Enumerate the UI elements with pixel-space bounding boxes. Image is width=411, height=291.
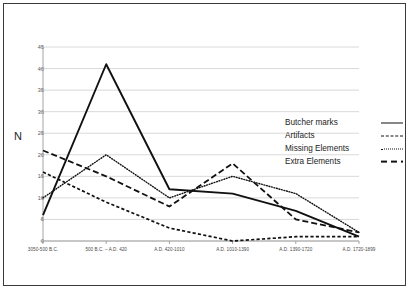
x-tick-0: 3050-500 B.C. [28, 247, 58, 252]
chart-frame: N 051015202530354045 3050-500 B.C.500 B.… [3, 3, 406, 286]
x-tick-5: A.D. 1720-1899 [343, 247, 376, 252]
legend-swatch-solid [381, 118, 403, 128]
x-tick-3: A.D. 1010-1390 [216, 247, 249, 252]
legend-label: Extra Elements [285, 157, 378, 166]
chart-legend: Butcher marksArtifactsMissing ElementsEx… [285, 116, 403, 168]
legend-swatch-dotted [381, 144, 403, 154]
x-axis-tick-labels: 3050-500 B.C.500 B.C. – A.D. 420A.D. 420… [4, 247, 407, 267]
x-tick-2: A.D. 420-1010 [154, 247, 184, 252]
legend-item-extra-elements: Extra Elements [285, 155, 403, 168]
x-tick-4: A.D. 1390-1720 [279, 247, 312, 252]
legend-label: Missing Elements [285, 144, 378, 153]
legend-label: Butcher marks [285, 118, 378, 127]
x-tick-1: 500 B.C. – A.D. 420 [85, 247, 127, 252]
legend-swatch-shortdash [381, 131, 403, 141]
legend-item-missing-elements: Missing Elements [285, 142, 403, 155]
legend-swatch-longdash [381, 157, 403, 167]
legend-item-butcher-marks: Butcher marks [285, 116, 403, 129]
legend-label: Artifacts [285, 131, 378, 140]
series-line-artifacts [43, 172, 359, 241]
legend-item-artifacts: Artifacts [285, 129, 403, 142]
